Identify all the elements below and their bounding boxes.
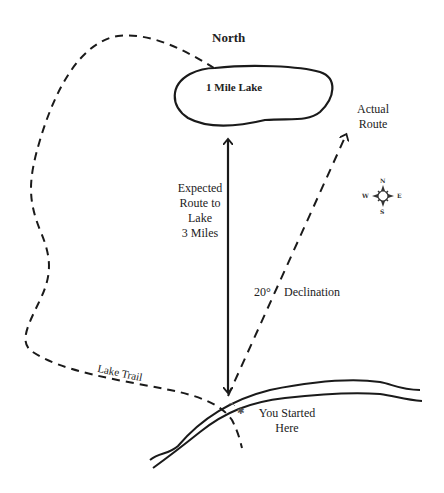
trail-map: ✱	[0, 0, 444, 493]
start-label-line2: Here	[252, 421, 322, 436]
compass-east-label: E	[397, 192, 402, 199]
actual-route-label: Actual Route	[357, 102, 389, 132]
start-star-icon: ✱	[237, 406, 245, 416]
expected-route-distance: 3 Miles	[168, 226, 232, 241]
expected-route-label: Expected Route to Lake 3 Miles	[168, 181, 232, 241]
compass-rose-icon	[372, 185, 394, 207]
lake-trail-path	[25, 35, 242, 448]
compass-south-label: S	[380, 208, 384, 215]
lake-label: 1 Mile Lake	[206, 81, 262, 95]
declination-degrees: 20°	[254, 285, 271, 300]
actual-route-label-line1: Actual	[357, 102, 389, 117]
compass-north-label: N	[380, 177, 385, 184]
actual-route-label-line2: Route	[357, 117, 389, 132]
start-label-line1: You Started	[252, 406, 322, 421]
start-label: You Started Here	[252, 406, 322, 436]
compass-west-label: W	[362, 192, 369, 199]
expected-route-label-line2: Route to	[168, 196, 232, 211]
lake-outline	[175, 66, 333, 126]
map-title-north: North	[212, 30, 245, 46]
expected-route-label-line3: Lake	[168, 211, 232, 226]
declination-label: Declination	[284, 285, 340, 300]
expected-route-label-line1: Expected	[168, 181, 232, 196]
actual-route-arrow	[228, 135, 346, 396]
